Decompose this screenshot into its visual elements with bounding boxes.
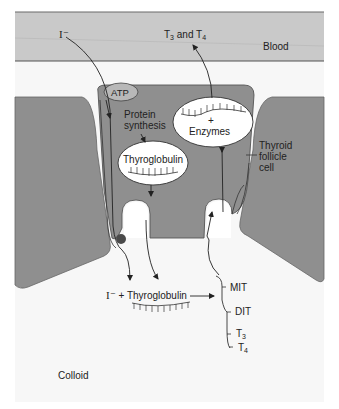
- colloid-label: Colloid: [58, 370, 89, 381]
- thyroid-hormone-synthesis-diagram: I⁻ T3 and T4 Blood ATP Protein synthesis…: [0, 0, 339, 409]
- enzymes-label: Enzymes: [189, 126, 230, 137]
- t4-label: T4: [238, 342, 248, 356]
- iodide-blood-label: I⁻: [59, 29, 69, 40]
- dit-label: DIT: [235, 306, 251, 317]
- colloid-thyroglobulin-label: I⁻ + Thyroglobulin: [106, 290, 187, 301]
- diagram-canvas: [0, 0, 339, 409]
- t3-label: T3: [236, 328, 246, 342]
- thyroglobulin-vesicle-label: Thyroglobulin: [123, 154, 183, 165]
- t3-t4-blood-label: T3 and T4: [164, 29, 206, 43]
- atp-label: ATP: [111, 87, 129, 98]
- mit-label: MIT: [230, 282, 247, 293]
- exocytosis-vesicle-opening: [124, 202, 148, 238]
- protein-synthesis-label: Protein synthesis: [124, 109, 166, 131]
- thyroid-follicle-cell-label: Thyroid follicle cell: [259, 140, 292, 173]
- iodide-transporter-dot: [116, 234, 126, 244]
- blood-label: Blood: [263, 41, 289, 52]
- enzymes-plus-label: +: [208, 115, 214, 126]
